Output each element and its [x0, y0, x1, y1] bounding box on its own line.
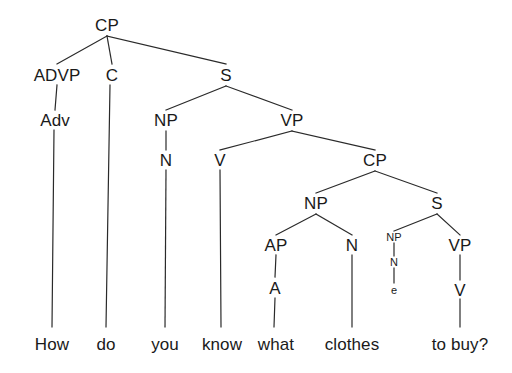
word-know: know: [202, 336, 242, 353]
node-v-infinitival: V: [454, 282, 465, 299]
node-a-what: A: [269, 280, 280, 297]
word-clothes: clothes: [325, 336, 380, 353]
node-n-empty: N: [390, 257, 398, 268]
word-you: you: [151, 336, 179, 353]
word-do: do: [96, 336, 115, 353]
node-n-clothes: N: [346, 237, 358, 254]
node-s-embedded: S: [431, 195, 442, 212]
word-how: How: [35, 336, 69, 353]
node-vp-infinitival: VP: [449, 237, 472, 254]
node-n-subject: N: [160, 152, 172, 169]
node-advp: ADVP: [34, 67, 81, 84]
syntax-tree-diagram: CP ADVP C S Adv NP VP N V CP NP S AP N N…: [0, 0, 512, 373]
node-ap: AP: [265, 237, 288, 254]
node-c: C: [106, 67, 118, 84]
node-vp-main: VP: [281, 112, 304, 129]
node-v-main: V: [214, 152, 225, 169]
node-np-empty: NP: [386, 232, 401, 243]
node-s-main: S: [220, 67, 231, 84]
node-cp-root: CP: [95, 17, 119, 34]
word-to-buy: to buy?: [432, 336, 488, 353]
node-cp-embedded: CP: [363, 152, 387, 169]
node-np-wh: NP: [304, 195, 328, 212]
word-what: what: [258, 336, 294, 353]
node-adv: Adv: [40, 112, 70, 129]
tree-branch-lines: [0, 0, 512, 373]
node-np-subject: NP: [154, 112, 178, 129]
node-e-trace: e: [391, 285, 397, 296]
